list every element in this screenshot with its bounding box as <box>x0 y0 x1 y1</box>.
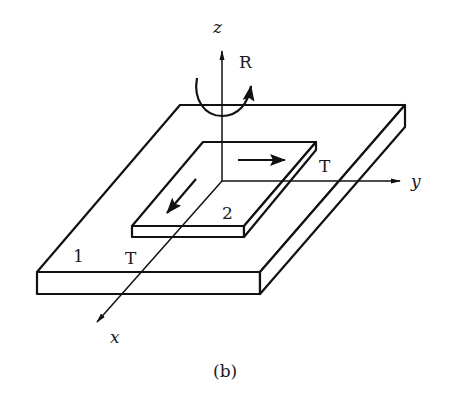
translation-label-x: T <box>125 248 137 268</box>
plate-axes-diagram: z y x R T T 1 2 (b) <box>0 0 450 403</box>
z-axis-label: z <box>212 17 223 37</box>
translation-label-y: T <box>319 156 331 176</box>
plate-1-label: 1 <box>73 246 84 266</box>
rotation-label: R <box>239 52 253 72</box>
y-axis-label: y <box>410 171 421 191</box>
plate-2-label: 2 <box>222 203 233 223</box>
figure-caption: (b) <box>213 361 237 381</box>
x-axis-label: x <box>110 327 120 347</box>
diagram-canvas: z y x R T T 1 2 (b) <box>0 0 450 403</box>
